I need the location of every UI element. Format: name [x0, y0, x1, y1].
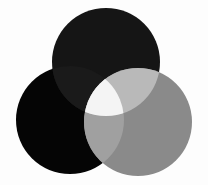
venn-diagram — [0, 0, 208, 185]
venn-svg — [0, 0, 208, 185]
